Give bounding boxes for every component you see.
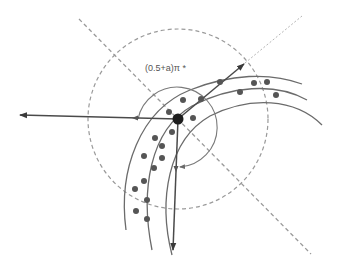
- inner-arc: [166, 103, 322, 255]
- center-point: [173, 114, 184, 125]
- left-arrow-tick-icon: [132, 116, 138, 121]
- boundary-diagram: (0.5+a)π *: [0, 0, 339, 264]
- down-arrow: [173, 119, 178, 250]
- data-points: [132, 79, 279, 222]
- dashed-diagonal-line: [79, 19, 311, 254]
- dotted-direction-line: [245, 16, 302, 63]
- down-arrow-tick-icon: [174, 166, 179, 172]
- outer-arc: [124, 76, 302, 230]
- angle-label: (0.5+a)π *: [145, 63, 186, 73]
